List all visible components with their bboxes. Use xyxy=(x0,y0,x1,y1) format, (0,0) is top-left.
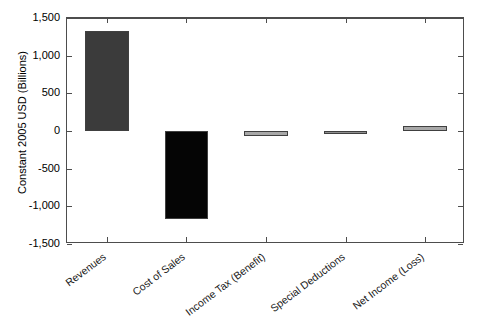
x-tick-mark xyxy=(107,18,108,23)
y-tick-mark xyxy=(67,244,72,245)
bar xyxy=(85,31,129,131)
x-tick-mark xyxy=(346,18,347,23)
x-tick-mark xyxy=(346,237,347,242)
bar xyxy=(244,131,288,136)
y-tick-label: 1,000 xyxy=(14,49,60,61)
chart-figure: Constant 2005 USD (Billions) 1,5001,0005… xyxy=(0,0,485,325)
x-tick-mark xyxy=(186,18,187,23)
bar xyxy=(165,131,209,219)
x-tick-mark xyxy=(425,18,426,23)
bar xyxy=(403,126,447,131)
y-tick-label: -1,000 xyxy=(14,199,60,211)
y-tick-mark xyxy=(458,206,463,207)
x-tick-mark xyxy=(186,237,187,242)
x-tick-mark xyxy=(266,18,267,23)
x-tick-mark xyxy=(107,237,108,242)
y-tick-label: -1,500 xyxy=(14,237,60,249)
x-tick-mark xyxy=(266,237,267,242)
y-tick-label: 500 xyxy=(14,86,60,98)
y-tick-mark xyxy=(458,56,463,57)
y-tick-mark xyxy=(67,18,72,19)
x-tick-mark xyxy=(425,237,426,242)
y-tick-mark xyxy=(458,18,463,19)
y-tick-mark xyxy=(458,244,463,245)
y-tick-label: 1,500 xyxy=(14,11,60,23)
y-tick-label: -500 xyxy=(14,162,60,174)
plot-area xyxy=(66,17,464,243)
y-tick-mark xyxy=(458,93,463,94)
y-tick-label: 0 xyxy=(14,124,60,136)
y-tick-mark xyxy=(458,131,463,132)
zero-baseline xyxy=(67,18,463,19)
y-tick-mark xyxy=(67,56,72,57)
y-tick-mark xyxy=(67,169,72,170)
y-tick-mark xyxy=(67,131,72,132)
bar xyxy=(324,131,368,134)
y-tick-mark xyxy=(458,169,463,170)
y-tick-mark xyxy=(67,206,72,207)
y-tick-mark xyxy=(67,93,72,94)
